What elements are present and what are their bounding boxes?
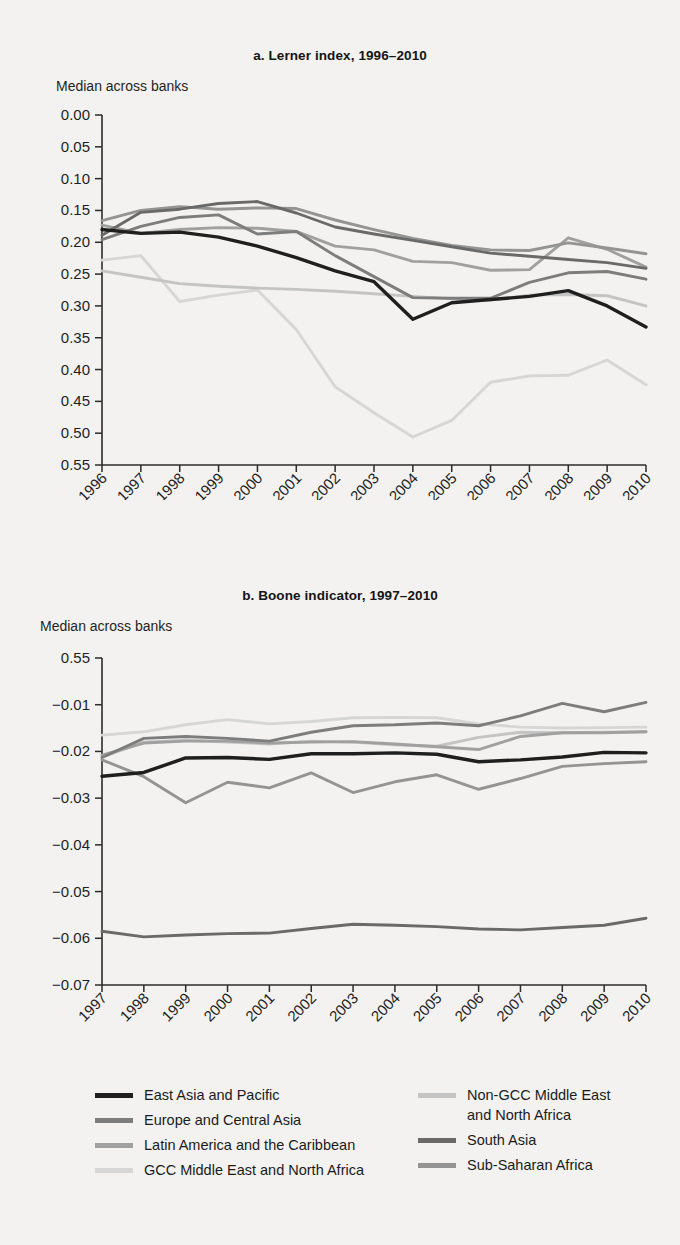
legend-item-label: Non-GCC Middle East and North Africa <box>467 1086 610 1125</box>
x-axis-tick-label: 1999 <box>191 469 227 500</box>
y-axis-tick-label: 0.30 <box>61 297 90 314</box>
x-axis-tick-label: 2009 <box>580 469 616 500</box>
panel-b-title: b. Boone indicator, 1997–2010 <box>0 588 680 603</box>
y-axis-tick-label: 0.10 <box>61 170 90 187</box>
x-axis-tick-label: 2006 <box>451 989 487 1025</box>
panel-b-axis-caption: Median across banks <box>40 618 172 634</box>
x-axis-tick-label: 2007 <box>502 469 538 500</box>
legend: East Asia and PacificEurope and Central … <box>0 1086 680 1206</box>
legend-swatch-icon <box>95 1093 133 1098</box>
legend-item[interactable]: Latin America and the Caribbean <box>95 1136 425 1155</box>
y-axis-tick-label: −0.07 <box>52 976 90 993</box>
x-axis-tick-label: 2001 <box>269 469 305 500</box>
y-axis-tick-label: −0.04 <box>52 836 90 853</box>
legend-swatch-icon <box>95 1118 133 1123</box>
y-axis-tick-label: −0.03 <box>52 789 90 806</box>
legend-item[interactable]: GCC Middle East and North Africa <box>95 1161 425 1180</box>
legend-item-label: Europe and Central Asia <box>144 1111 301 1130</box>
y-axis-tick-label: 0.55 <box>61 456 90 473</box>
legend-item[interactable]: Europe and Central Asia <box>95 1111 425 1130</box>
x-axis-tick-label: 2004 <box>367 989 403 1025</box>
legend-column-left: East Asia and PacificEurope and Central … <box>95 1086 425 1186</box>
panel-a-axis-caption: Median across banks <box>56 78 188 94</box>
x-axis-tick-label: 2000 <box>200 989 236 1025</box>
x-axis-tick-label: 2006 <box>463 469 499 500</box>
y-axis-tick-label: −0.06 <box>52 929 90 946</box>
series-line <box>102 752 646 776</box>
x-axis-tick-label: 2009 <box>577 989 613 1025</box>
x-axis-tick-label: 1997 <box>75 989 111 1025</box>
y-axis-tick-label: 0.45 <box>61 392 90 409</box>
y-axis-tick-label: 0.15 <box>61 201 90 218</box>
x-axis-tick-label: 2010 <box>619 989 655 1025</box>
y-axis-tick-label: 0.35 <box>61 329 90 346</box>
panel-b-plot: 0.55−0.01−0.02−0.03−0.04−0.05−0.06−0.071… <box>0 640 680 1040</box>
series-line <box>102 760 646 803</box>
x-axis-tick-label: 2003 <box>326 989 362 1025</box>
series-line <box>102 215 646 298</box>
x-axis-tick-label: 2008 <box>535 989 571 1025</box>
series-line <box>102 918 646 937</box>
x-axis-tick-label: 2005 <box>409 989 445 1025</box>
panel-a-plot: 0.000.050.100.150.200.250.300.350.400.45… <box>0 100 680 500</box>
x-axis-tick-label: 2003 <box>347 469 383 500</box>
legend-item-label: Latin America and the Caribbean <box>144 1136 355 1155</box>
y-axis-tick-label: 0.00 <box>61 106 90 123</box>
figure-page: a. Lerner index, 1996–2010 Median across… <box>0 0 680 1245</box>
y-axis-tick-label: 0.55 <box>61 649 90 666</box>
x-axis-tick-label: 2004 <box>385 469 421 500</box>
x-axis-tick-label: 2001 <box>242 989 278 1025</box>
x-axis-tick-label: 2002 <box>284 989 320 1025</box>
legend-item[interactable]: Non-GCC Middle East and North Africa <box>418 1086 678 1125</box>
plot-b-svg: 0.55−0.01−0.02−0.03−0.04−0.05−0.06−0.071… <box>0 640 680 1040</box>
x-axis-tick-label: 1998 <box>152 469 188 500</box>
panel-a-title: a. Lerner index, 1996–2010 <box>0 48 680 63</box>
x-axis-tick-label: 1996 <box>75 469 111 500</box>
legend-swatch-icon <box>418 1093 456 1098</box>
legend-item[interactable]: Sub-Saharan Africa <box>418 1156 678 1175</box>
legend-column-right: Non-GCC Middle East and North AfricaSout… <box>418 1086 678 1181</box>
legend-item[interactable]: South Asia <box>418 1131 678 1150</box>
x-axis-tick-label: 2007 <box>493 989 529 1025</box>
legend-swatch-icon <box>95 1143 133 1148</box>
legend-swatch-icon <box>418 1138 456 1143</box>
legend-item-label: Sub-Saharan Africa <box>467 1156 593 1175</box>
x-axis-tick-label: 2000 <box>230 469 266 500</box>
x-axis-tick-label: 2008 <box>541 469 577 500</box>
legend-item-label: GCC Middle East and North Africa <box>144 1161 364 1180</box>
y-axis-tick-label: 0.40 <box>61 361 90 378</box>
x-axis-tick-label: 1999 <box>158 989 194 1025</box>
legend-swatch-icon <box>95 1168 133 1173</box>
y-axis-tick-label: 0.05 <box>61 138 90 155</box>
series-line <box>102 702 646 757</box>
y-axis-tick-label: −0.01 <box>52 696 90 713</box>
y-axis-tick-label: 0.20 <box>61 233 90 250</box>
legend-swatch-icon <box>418 1163 456 1168</box>
legend-item[interactable]: East Asia and Pacific <box>95 1086 425 1105</box>
x-axis-tick-label: 1998 <box>116 989 152 1025</box>
x-axis-tick-label: 2010 <box>619 469 655 500</box>
x-axis-tick-label: 2005 <box>424 469 460 500</box>
series-line <box>102 202 646 269</box>
y-axis-tick-label: −0.05 <box>52 883 90 900</box>
x-axis-tick-label: 1997 <box>113 469 149 500</box>
legend-item-label: East Asia and Pacific <box>144 1086 279 1105</box>
plot-a-svg: 0.000.050.100.150.200.250.300.350.400.45… <box>0 100 680 500</box>
legend-item-label: South Asia <box>467 1131 536 1150</box>
y-axis-tick-label: 0.25 <box>61 265 90 282</box>
x-axis-tick-label: 2002 <box>308 469 344 500</box>
y-axis-tick-label: −0.02 <box>52 742 90 759</box>
y-axis-tick-label: 0.50 <box>61 424 90 441</box>
